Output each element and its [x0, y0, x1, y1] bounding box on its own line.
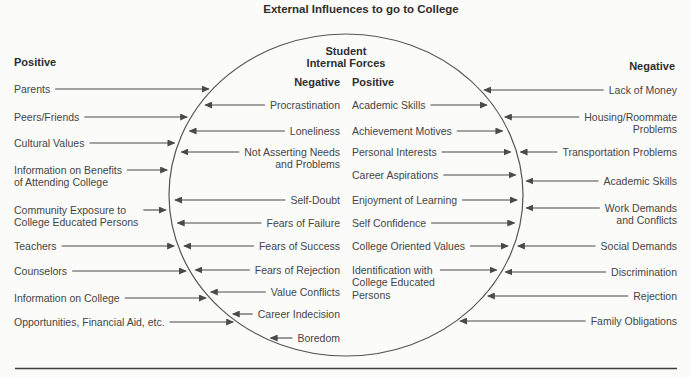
label-fears-of-failure: Fears of Failure	[266, 217, 340, 230]
label-parents: Parents	[14, 83, 50, 96]
student-internal-forces-circle	[169, 34, 523, 356]
label-academic-skills-external: Academic Skills	[603, 175, 677, 188]
label-lack-of-money: Lack of Money	[609, 84, 677, 97]
external-positive-header: Positive	[14, 56, 56, 69]
label-career-indecision: Career Indecision	[258, 308, 340, 321]
diagram-title: External Influences to go to College	[263, 3, 459, 15]
label-self-confidence: Self Confidence	[352, 217, 426, 230]
label-enjoyment-of-learning: Enjoyment of Learning	[352, 194, 457, 207]
label-discrimination: Discrimination	[611, 266, 677, 279]
label-housing-roommate-problems: Housing/Roommate Problems	[584, 111, 677, 136]
label-boredom: Boredom	[297, 332, 340, 345]
label-academic-skills-internal: Academic Skills	[352, 99, 426, 112]
label-work-demands-conflicts: Work Demands and Conflicts	[605, 202, 677, 227]
external-negative-header: Negative	[629, 60, 675, 73]
label-cultural-values: Cultural Values	[14, 137, 84, 150]
circle-label-internal-forces: Internal Forces	[307, 57, 386, 70]
label-identification-college-educated: Identification with College Educated Per…	[352, 264, 435, 302]
label-college-oriented-values: College Oriented Values	[352, 240, 465, 253]
label-peers-friends: Peers/Friends	[14, 111, 79, 124]
label-opportunities-financial-aid: Opportunities, Financial Aid, etc.	[14, 316, 165, 329]
label-rejection: Rejection	[633, 290, 677, 303]
label-social-demands: Social Demands	[601, 240, 677, 253]
label-career-aspirations: Career Aspirations	[352, 169, 438, 182]
internal-positive-header: Positive	[352, 76, 394, 89]
label-not-asserting-needs: Not Asserting Needs and Problems	[244, 146, 340, 171]
college-influences-diagram: External Influences to go to College Stu…	[0, 0, 691, 377]
label-family-obligations: Family Obligations	[591, 315, 677, 328]
label-fears-of-rejection: Fears of Rejection	[255, 264, 340, 277]
label-community-exposure: Community Exposure to College Educated P…	[14, 204, 138, 229]
label-personal-interests: Personal Interests	[352, 146, 437, 159]
label-self-doubt: Self-Doubt	[290, 194, 340, 207]
label-information-on-benefits: Information on Benefits of Attending Col…	[14, 164, 122, 189]
label-achievement-motives: Achievement Motives	[352, 125, 452, 138]
label-procrastination: Procrastination	[270, 99, 340, 112]
label-loneliness: Loneliness	[290, 125, 340, 138]
label-fears-of-success: Fears of Success	[259, 240, 340, 253]
internal-negative-header: Negative	[294, 76, 340, 89]
circle-center-label: StudentInternal Forces	[307, 45, 386, 70]
label-value-conflicts: Value Conflicts	[271, 286, 340, 299]
label-counselors: Counselors	[14, 265, 67, 278]
label-teachers: Teachers	[14, 240, 57, 253]
label-transportation-problems: Transportation Problems	[562, 146, 677, 159]
circle-label-student: Student	[307, 45, 386, 58]
label-information-on-college: Information on College	[14, 292, 120, 305]
